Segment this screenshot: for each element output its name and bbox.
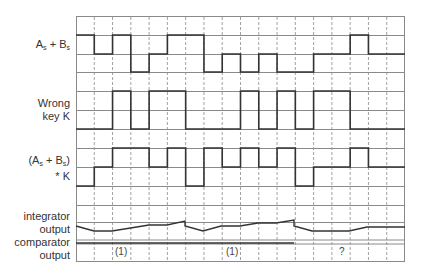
label-text: (A xyxy=(28,154,39,166)
label-text: B xyxy=(59,38,66,50)
label-as-plus-bs: As + Bs xyxy=(36,38,70,54)
label-line: output xyxy=(14,249,70,262)
annotation-1b: (1) xyxy=(226,246,238,257)
label-text: + xyxy=(47,38,60,50)
annotation-1a: (1) xyxy=(115,246,127,257)
label-sub: s xyxy=(67,44,71,51)
label-line: (As + Bs) xyxy=(28,154,70,170)
as-plus-bs-signal xyxy=(76,35,405,72)
label-text: A xyxy=(36,38,43,50)
label-integrator: integrator output xyxy=(24,210,70,236)
label-line: output xyxy=(24,223,70,236)
label-line: comparator xyxy=(14,236,70,249)
label-line: Wrong xyxy=(38,97,70,110)
label-comparator: comparator output xyxy=(14,236,70,262)
label-line: integrator xyxy=(24,210,70,223)
label-product: (As + Bs) * K xyxy=(28,154,70,183)
label-line: * K xyxy=(28,170,70,183)
annotation-question: ? xyxy=(339,246,345,257)
label-text: ) xyxy=(66,154,70,166)
label-wrong-key: Wrong key K xyxy=(38,97,70,123)
label-text: + B xyxy=(43,154,63,166)
label-line: key K xyxy=(38,110,70,123)
